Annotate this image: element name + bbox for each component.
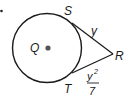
point-label-s: S xyxy=(64,4,72,18)
fraction-numerator: y xyxy=(86,70,94,82)
tangent-diagram: S y Q R T y 2 7 xyxy=(0,0,129,100)
fraction-denominator: 7 xyxy=(89,85,96,97)
point-label-t: T xyxy=(64,82,73,96)
segment-label-sr: y xyxy=(90,24,98,38)
center-label-q: Q xyxy=(30,41,39,55)
center-point xyxy=(45,45,50,50)
segment-label-tr-fraction: y 2 7 xyxy=(86,68,99,97)
bullet-dot xyxy=(0,10,3,13)
fraction-exponent: 2 xyxy=(93,68,98,75)
point-label-r: R xyxy=(115,49,124,63)
